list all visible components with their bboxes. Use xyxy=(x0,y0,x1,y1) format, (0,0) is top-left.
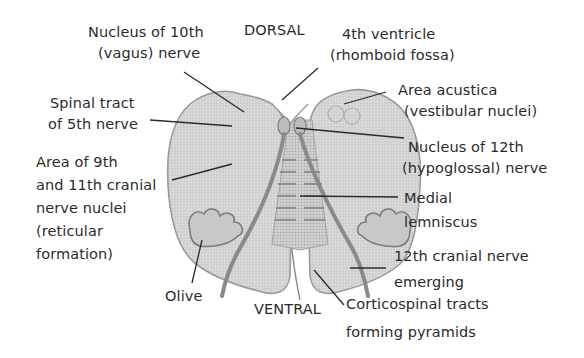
label-spinal-tract-5th: Spinal tract of 5th nerve xyxy=(50,93,138,135)
label-line: 12th cranial nerve xyxy=(394,243,529,269)
label-line: (rhomboid fossa) xyxy=(330,45,455,66)
label-corticospinal: Corticospinal tracts forming pyramids xyxy=(346,290,489,346)
label-olive: Olive xyxy=(165,286,202,307)
label-line: formation) xyxy=(36,243,156,266)
label-twelfth-cranial-emerging: 12th cranial nerve emerging xyxy=(394,243,529,295)
orientation-dorsal: DORSAL xyxy=(244,20,305,41)
label-line: Area acustica xyxy=(398,80,537,101)
label-line: Nucleus of 12th xyxy=(408,137,547,158)
label-nucleus-10th: Nucleus of 10th (vagus) nerve xyxy=(88,22,204,64)
label-line: of 5th nerve xyxy=(48,114,138,135)
label-line: (vestibular nuclei) xyxy=(404,101,537,122)
label-line: Area of 9th xyxy=(36,151,156,174)
label-line: Spinal tract xyxy=(50,93,138,114)
medulla-left-half xyxy=(168,91,292,293)
label-fourth-ventricle: 4th ventricle (rhomboid fossa) xyxy=(330,24,455,66)
label-area-9th-11th: Area of 9th and 11th cranial nerve nucle… xyxy=(36,151,156,266)
label-line: Corticospinal tracts xyxy=(346,290,489,318)
label-line: Nucleus of 10th xyxy=(88,22,204,43)
label-line: Medial xyxy=(404,186,477,210)
label-line: (hypoglossal) nerve xyxy=(402,158,547,179)
orientation-ventral: VENTRAL xyxy=(254,299,321,320)
label-line: nerve nuclei xyxy=(36,197,156,220)
label-line: forming pyramids xyxy=(346,318,489,346)
label-line: (vagus) nerve xyxy=(88,43,204,64)
label-nucleus-12th: Nucleus of 12th (hypoglossal) nerve xyxy=(408,137,547,179)
label-line: and 11th cranial xyxy=(36,174,156,197)
label-line: lemniscus xyxy=(404,210,477,234)
label-medial-lemniscus: Medial lemniscus xyxy=(404,186,477,234)
label-area-acustica: Area acustica (vestibular nuclei) xyxy=(398,80,537,122)
label-line: (reticular xyxy=(36,220,156,243)
label-line: Olive xyxy=(165,286,202,307)
label-line: 4th ventricle xyxy=(330,24,455,45)
